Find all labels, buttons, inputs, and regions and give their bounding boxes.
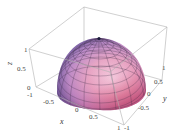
z-axis: 1 0.5 0 z [6,46,31,92]
y-tick-0: 0 [147,90,151,98]
y-tick-neg1: -1 [124,124,130,132]
x-axis-label: x [59,117,64,126]
x-tick-1: 1 [117,124,121,132]
y-tick-0.5: 0.5 [154,78,163,86]
z-tick-1: 1 [24,46,28,54]
y-tick-1: 1 [162,64,166,72]
x-tick-neg0.5: -0.5 [43,98,55,106]
x-tick-0.5: 0.5 [89,113,98,121]
x-tick-0: 0 [75,106,79,114]
hemisphere-3d-plot: 1 0.5 0 z -1 -0.5 0 0.5 1 x -1 -0.5 0 0.… [0,0,171,138]
y-axis-label: y [162,94,167,103]
z-tick-0.5: 0.5 [17,65,26,73]
pole-point [97,37,100,40]
x-tick-neg1: -1 [27,91,33,99]
z-axis-label: z [6,61,15,66]
y-tick-neg0.5: -0.5 [138,104,150,112]
hemisphere-surface [56,37,150,111]
